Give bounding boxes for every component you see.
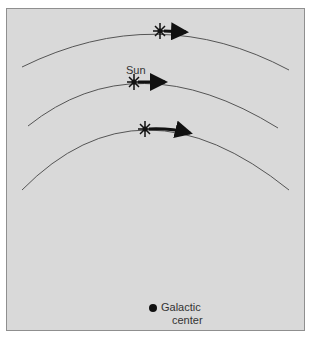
- outer-motion-arrow: [164, 31, 186, 32]
- inner-orbit-arc: [22, 130, 289, 190]
- inner-motion-arrow: [149, 129, 190, 133]
- sun-label: Sun: [126, 64, 146, 76]
- galactic-center-label-line1: Galactic: [161, 301, 201, 313]
- orbits-svg: [0, 0, 311, 340]
- sun-orbit-arc: [28, 83, 278, 128]
- galactic-center-label-line2: center: [172, 314, 203, 326]
- galactic-center-dot-icon: [149, 304, 157, 312]
- outer-orbit-arc: [22, 34, 289, 70]
